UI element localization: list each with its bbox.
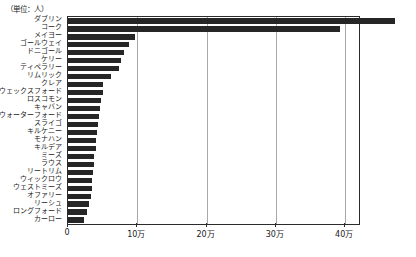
bar-row (68, 106, 359, 111)
bar (68, 82, 103, 87)
category-label: オファリー (27, 192, 62, 199)
axis-tick (67, 223, 68, 227)
bar-row (68, 146, 359, 151)
category-label: コーク (41, 24, 62, 31)
value-axis: 010万20万30万40万 (0, 223, 416, 253)
bar (68, 178, 92, 183)
bar-row (68, 90, 359, 95)
category-label: ロスコモン (27, 96, 62, 103)
category-label: ケリー (41, 56, 62, 63)
bar (68, 194, 91, 199)
axis-tick (206, 223, 207, 227)
category-label: ウェックスフォード (0, 88, 62, 95)
axis-tick-label: 30万 (266, 228, 284, 239)
bar (68, 42, 129, 47)
bar (68, 34, 135, 39)
axis-tick-label: 20万 (196, 228, 214, 239)
plot-area (67, 16, 360, 225)
category-label: スライゴ (34, 120, 62, 127)
category-label: ドニゴール (27, 48, 62, 55)
bar (68, 98, 101, 103)
category-label: クレア (41, 80, 62, 87)
bar-row (68, 122, 359, 127)
category-label: ダブリン (34, 16, 62, 23)
bar (68, 66, 119, 71)
category-label: ミーズ (41, 152, 62, 159)
category-label: ラウス (41, 160, 62, 167)
axis-tick-label: 40万 (335, 228, 353, 239)
unit-note: （単位：人） (6, 3, 48, 14)
bar (68, 106, 100, 111)
category-label: ウィックロウ (20, 176, 62, 183)
bar-row (68, 194, 359, 199)
bar (68, 154, 94, 159)
bar (68, 90, 103, 95)
bar-row (68, 217, 359, 222)
bar-row (68, 170, 359, 175)
bar-row (68, 74, 359, 79)
bar (68, 217, 84, 222)
bar (68, 58, 121, 63)
axis-tick-label: 10万 (127, 228, 145, 239)
bar-row (68, 18, 359, 23)
bar-row (68, 114, 359, 119)
bar (68, 18, 395, 23)
bar (68, 74, 111, 79)
category-label: ティペラリー (20, 64, 62, 71)
category-label: キルケニー (27, 128, 62, 135)
axis-tick (136, 223, 137, 227)
bar-row (68, 130, 359, 135)
bar-row (68, 154, 359, 159)
bar-row (68, 201, 359, 206)
bar (68, 130, 97, 135)
bar-row (68, 186, 359, 191)
bar-row (68, 50, 359, 55)
category-label: リーシュ (34, 200, 62, 207)
bar (68, 26, 340, 31)
bar (68, 146, 96, 151)
bar (68, 186, 92, 191)
axis-tick (275, 223, 276, 227)
bar (68, 138, 96, 143)
category-label: ウォーターフォード (0, 112, 62, 119)
bar-chart: （単位：人） ダブリンコークメイヨーゴールウェイドニゴールケリーティペラリーリム… (0, 0, 416, 257)
bar-row (68, 82, 359, 87)
bar (68, 122, 98, 127)
category-label: リートリム (27, 168, 62, 175)
bar-row (68, 26, 359, 31)
axis-tick (344, 223, 345, 227)
category-label: キルデア (34, 144, 62, 151)
category-label: リムリック (27, 72, 62, 79)
bar-row (68, 66, 359, 71)
category-label: モナハン (34, 136, 62, 143)
category-label: カーロー (34, 216, 62, 223)
bar (68, 114, 99, 119)
bar (68, 209, 87, 214)
category-axis-labels: ダブリンコークメイヨーゴールウェイドニゴールケリーティペラリーリムリッククレアウ… (0, 16, 65, 223)
bar-row (68, 162, 359, 167)
bar-row (68, 209, 359, 214)
bar-series (68, 17, 359, 224)
category-label: キャバン (34, 104, 62, 111)
bar-row (68, 98, 359, 103)
bar-row (68, 138, 359, 143)
bar (68, 201, 89, 206)
bar-row (68, 178, 359, 183)
bar (68, 162, 94, 167)
category-label: ロングフォード (13, 208, 62, 215)
bar-row (68, 58, 359, 63)
bar (68, 50, 124, 55)
category-label: ウェストミーズ (13, 184, 62, 191)
bar (68, 170, 93, 175)
bar-row (68, 34, 359, 39)
axis-tick-label: 0 (64, 228, 69, 237)
bar-row (68, 42, 359, 47)
